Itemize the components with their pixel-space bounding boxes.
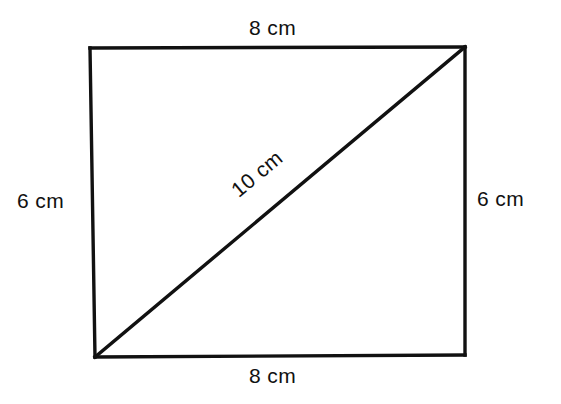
dimension-label-right: 6 cm <box>477 188 524 209</box>
diagonal-line <box>95 47 465 357</box>
edge-left <box>90 48 95 357</box>
dimension-label-top: 8 cm <box>249 17 296 38</box>
edge-bottom <box>95 355 465 357</box>
dimension-label-left: 6 cm <box>17 190 64 211</box>
dimension-label-bottom: 8 cm <box>249 365 296 386</box>
edge-top <box>90 47 465 48</box>
geometry-figure: 8 cm 8 cm 6 cm 6 cm 10 cm <box>0 0 561 404</box>
